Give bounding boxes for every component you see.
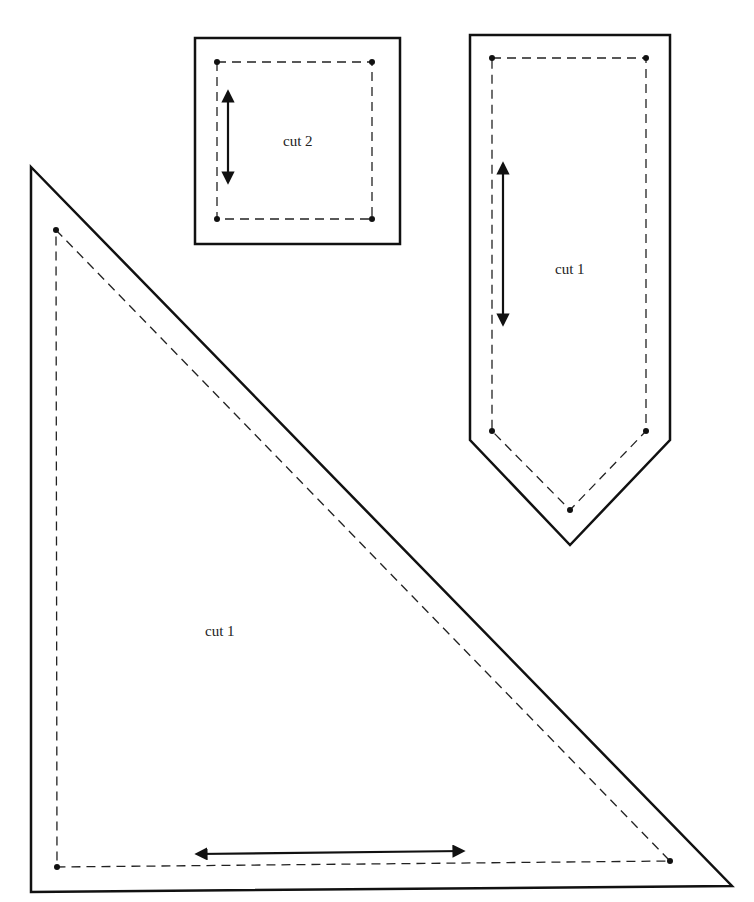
piece-label: cut 2: [283, 133, 313, 149]
pennant-piece: cut 1: [470, 35, 670, 545]
triangle-piece: cut 1: [31, 167, 732, 892]
pattern-sheet: cut 2 cut 1 cut 1: [0, 0, 754, 902]
piece-label: cut 1: [555, 261, 585, 277]
grainline-arrow: [197, 851, 463, 854]
piece-label: cut 1: [205, 623, 235, 639]
square-piece: cut 2: [195, 38, 400, 244]
